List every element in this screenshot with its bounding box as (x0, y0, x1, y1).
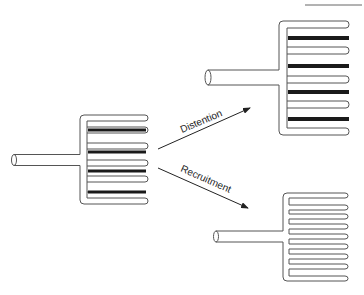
distention-arrow: Distention (158, 107, 250, 149)
vessel-inlet-icon (12, 155, 17, 166)
recruitment-arrow: Recruitment (158, 163, 248, 208)
distention-perfused-capillaries (288, 38, 349, 119)
distention-label: Distention (178, 107, 223, 135)
baseline-perfused-capillaries (88, 130, 146, 192)
vessel-inlet-icon (214, 231, 219, 242)
recruitment-label: Recruitment (179, 163, 233, 195)
recruitment-vessel-network (214, 193, 349, 281)
diagram-canvas: Distention Recruitment (0, 0, 364, 295)
vessel-inlet-icon (205, 70, 211, 85)
